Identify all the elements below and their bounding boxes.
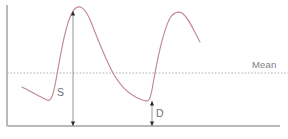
diastolic-arrow-down-icon	[150, 121, 154, 126]
waveform-svg: S D Mean	[0, 0, 288, 139]
systolic-arrow-down-icon	[71, 121, 75, 126]
waveform-figure: S D Mean	[0, 0, 288, 139]
pulse-waveform-curve	[22, 7, 200, 101]
mean-line-label: Mean	[252, 59, 277, 70]
diastolic-arrow-up-icon	[150, 101, 154, 106]
diastolic-amplitude-label: D	[156, 107, 164, 119]
systolic-amplitude-label: S	[57, 86, 64, 98]
diastolic-measure-group: D	[150, 101, 164, 126]
